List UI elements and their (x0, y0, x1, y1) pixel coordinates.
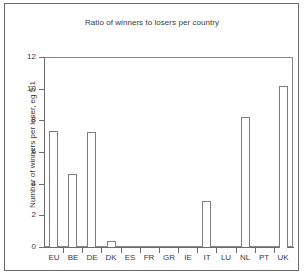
y-tick-mark (39, 89, 44, 90)
y-tick-label: 0 (6, 243, 36, 251)
plot-area (44, 57, 293, 247)
y-tick-mark (39, 152, 44, 153)
chart-figure: Ratio of winners to losers per country 0… (0, 0, 304, 275)
x-tick-mark (216, 248, 217, 253)
x-tick-mark (255, 248, 256, 253)
y-tick-mark (39, 120, 44, 121)
y-tick-mark (39, 247, 44, 248)
x-tick-mark (274, 248, 275, 253)
bar (279, 86, 288, 248)
x-tick-mark (82, 248, 83, 253)
bar (107, 241, 116, 247)
x-tick-mark (236, 248, 237, 253)
x-tick-mark (159, 248, 160, 253)
y-axis-line (44, 57, 45, 248)
bar (87, 132, 96, 247)
x-tick-mark (140, 248, 141, 253)
x-tick-mark (121, 248, 122, 253)
x-tick-mark (101, 248, 102, 253)
x-tick-mark (197, 248, 198, 253)
bar (241, 117, 250, 247)
x-tick-mark (178, 248, 179, 253)
chart-title: Ratio of winners to losers per country (0, 18, 304, 27)
bar (49, 131, 58, 247)
y-tick-mark (39, 184, 44, 185)
y-tick-mark (39, 215, 44, 216)
x-tick-label: UK (271, 254, 295, 262)
bar (68, 174, 77, 247)
x-tick-mark (63, 248, 64, 253)
y-axis-title: Number of winners per loser, eg 5:1 (28, 50, 37, 240)
y-tick-mark (39, 57, 44, 58)
bar (202, 201, 211, 247)
